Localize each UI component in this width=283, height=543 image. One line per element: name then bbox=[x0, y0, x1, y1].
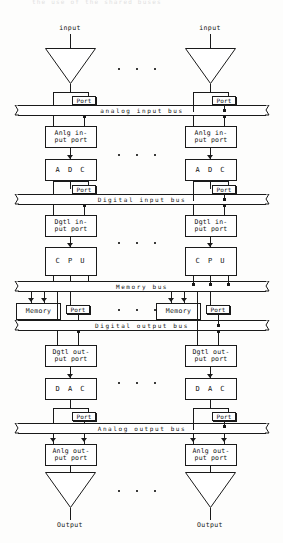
arrowhead-memory1-right bbox=[168, 298, 174, 302]
arrowhead-anlgout1-right bbox=[190, 438, 196, 442]
input-amplifier-right bbox=[185, 48, 236, 84]
wire-bus-to-anlg-in-left bbox=[53, 116, 54, 126]
block-dac-right[interactable]: D A C bbox=[185, 378, 237, 400]
wire-bypass-dig-right bbox=[193, 181, 194, 201]
junction-dot-dgtl-out-left bbox=[77, 330, 80, 333]
wire-split-anlgout-right bbox=[193, 408, 228, 409]
arrowhead-memory1-left bbox=[28, 298, 34, 302]
port-chip-analog-out-right[interactable]: Port bbox=[212, 412, 236, 421]
block-memory-left[interactable]: Memory bbox=[16, 303, 61, 320]
arrowhead-memory2-left bbox=[41, 298, 47, 302]
output-label-right: Output bbox=[186, 521, 234, 529]
wire-membus-to-port-right bbox=[210, 292, 211, 305]
bus-label-analog-input: analog input bus bbox=[18, 107, 266, 114]
wire-digoutbus-to-dgtlout-left bbox=[78, 331, 79, 345]
block-anlg-input-port-right[interactable]: Anlg in- put port bbox=[185, 126, 237, 148]
wire-amp-to-node-left bbox=[70, 84, 71, 92]
wire-digbus-to-dgtlin-left bbox=[53, 205, 54, 215]
diagram-canvas: the use of the shared buses input Port a… bbox=[0, 0, 283, 543]
ellipsis-dac-row bbox=[118, 382, 156, 384]
junction-dot-cpu2-right bbox=[209, 283, 212, 286]
wire-bypass-right bbox=[193, 92, 194, 112]
port-chip-digital-in-right[interactable]: Port bbox=[212, 185, 236, 194]
block-anlg-output-port-left[interactable]: Anlg out- put port bbox=[45, 444, 97, 466]
block-memory-right[interactable]: Memory bbox=[156, 303, 201, 320]
wire-adc-out-left bbox=[70, 181, 71, 189]
bus-label-analog-output: Analog output bus bbox=[18, 425, 266, 432]
wire-bypass-anlgout-right bbox=[193, 408, 194, 430]
block-adc-left[interactable]: A D C bbox=[45, 159, 97, 181]
port-chip-analog-out-left[interactable]: Port bbox=[72, 412, 96, 421]
junction-dot-cpu3-right bbox=[227, 283, 230, 286]
port-chip-analog-in-left[interactable]: Port bbox=[72, 96, 96, 105]
block-dgtl-output-port-left[interactable]: Dgtl out- put port bbox=[45, 345, 97, 367]
block-adc-right[interactable]: A D C bbox=[185, 159, 237, 181]
arrowhead-anlgout2-right bbox=[221, 438, 227, 442]
bus-label-digital-output: Digital output bus bbox=[18, 322, 266, 329]
wire-dac-out-right bbox=[210, 400, 211, 408]
arrowhead-anlgout2-left bbox=[81, 438, 87, 442]
bus-digital-output: Digital output bus bbox=[18, 320, 266, 331]
wire-digoutbus-to-dgtlout-right bbox=[218, 331, 219, 345]
wire-membus-to-port-left bbox=[70, 292, 71, 305]
junction-dot-digital-out-right bbox=[217, 324, 220, 327]
ellipsis-output-row bbox=[118, 490, 156, 492]
block-dac-left[interactable]: D A C bbox=[45, 378, 97, 400]
junction-dot-anlg-in-right bbox=[223, 115, 226, 118]
input-label-right: input bbox=[186, 24, 234, 32]
port-chip-digital-out-right[interactable]: Port bbox=[206, 305, 230, 314]
junction-dot-dgtl-in-left bbox=[83, 204, 86, 207]
bus-analog-input: analog input bus bbox=[18, 105, 266, 116]
junction-dot-anlg-in-left bbox=[83, 115, 86, 118]
junction-dot-analog-out-right bbox=[223, 425, 226, 428]
output-amplifier-right bbox=[185, 472, 236, 508]
ellipsis-memory-row bbox=[118, 309, 156, 311]
wire-bypass-long-right bbox=[197, 292, 198, 345]
junction-dot-digital-in-right bbox=[223, 198, 226, 201]
arrowhead-anlgout1-left bbox=[50, 438, 56, 442]
wire-dac-out-left bbox=[70, 400, 71, 408]
input-amplifier-left bbox=[45, 48, 96, 84]
wire-amp-to-node-right bbox=[210, 84, 211, 92]
port-chip-analog-in-right[interactable]: Port bbox=[212, 96, 236, 105]
wire-split-top-left bbox=[53, 92, 88, 93]
ellipsis-top bbox=[118, 68, 156, 70]
output-label-left: Output bbox=[46, 521, 94, 529]
ellipsis-cpu-row bbox=[118, 242, 156, 244]
junction-dot-dgtl-in-right bbox=[223, 204, 226, 207]
wire-split-dig-right bbox=[193, 181, 228, 182]
page-top-caption: the use of the shared buses bbox=[32, 0, 202, 6]
block-dgtl-input-port-left[interactable]: Dgtl in- put port bbox=[45, 215, 97, 237]
block-dgtl-input-port-right[interactable]: Dgtl in- put port bbox=[185, 215, 237, 237]
wire-digbus-to-dgtlin-right bbox=[193, 205, 194, 215]
ellipsis-adc-row bbox=[118, 154, 156, 156]
block-dgtl-output-port-right[interactable]: Dgtl out- put port bbox=[185, 345, 237, 367]
block-anlg-input-port-left[interactable]: Anlg in- put port bbox=[45, 126, 97, 148]
block-cpu-left[interactable]: C P U bbox=[45, 247, 97, 276]
wire-adc-out-right bbox=[210, 181, 211, 189]
port-chip-digital-out-left[interactable]: Port bbox=[66, 305, 90, 314]
junction-dot-analog-in-right bbox=[223, 109, 226, 112]
bus-label-digital-input: Digital input bus bbox=[18, 196, 266, 203]
wire-split-dig-left bbox=[53, 181, 88, 182]
input-label-left: input bbox=[46, 24, 94, 32]
bus-analog-output: Analog output bus bbox=[18, 423, 266, 434]
wire-bypass-long-left bbox=[57, 292, 58, 345]
port-chip-digital-in-left[interactable]: Port bbox=[72, 185, 96, 194]
wire-amp-to-output-right bbox=[210, 508, 211, 520]
junction-dot-dgtl-out-right bbox=[217, 330, 220, 333]
wire-input-to-amp-right bbox=[210, 34, 211, 48]
junction-dot-cpu1-right bbox=[192, 283, 195, 286]
block-cpu-right[interactable]: C P U bbox=[185, 247, 237, 276]
wire-split-anlgout-left bbox=[53, 408, 88, 409]
arrowhead-memory2-right bbox=[181, 298, 187, 302]
output-amplifier-left bbox=[45, 472, 96, 508]
block-anlg-output-port-right[interactable]: Anlg out- put port bbox=[185, 444, 237, 466]
wire-split-top-right bbox=[193, 92, 228, 93]
bus-digital-input: Digital input bus bbox=[18, 194, 266, 205]
wire-bus-to-anlg-in-right bbox=[193, 116, 194, 126]
wire-amp-to-output-left bbox=[70, 508, 71, 520]
wire-input-to-amp-left bbox=[70, 34, 71, 48]
